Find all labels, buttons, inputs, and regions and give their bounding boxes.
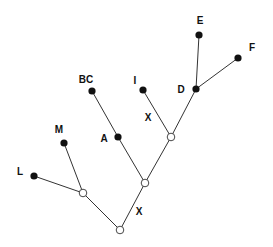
edge-n2-A — [118, 137, 145, 183]
tree-edges — [34, 35, 238, 230]
node-label-bc: BC — [79, 74, 93, 85]
edge-n3-M — [64, 143, 83, 193]
node-d — [192, 85, 199, 92]
edge-root-n3 — [83, 193, 120, 230]
node-label-a: A — [100, 133, 107, 144]
edge-n2-n1 — [145, 137, 171, 183]
node-label-f: F — [249, 42, 255, 53]
node-m — [60, 139, 67, 146]
node-label-i: I — [134, 75, 137, 86]
edge-label-x: X — [136, 206, 143, 217]
edge-D-F — [196, 58, 238, 89]
node-e — [195, 31, 202, 38]
node-label-e: E — [197, 15, 204, 26]
edge-label-x: X — [145, 112, 152, 123]
open-node-root — [116, 226, 124, 234]
node-label-d: D — [177, 84, 184, 95]
node-a — [114, 133, 121, 140]
edge-D-E — [196, 35, 199, 89]
node-l — [30, 172, 37, 179]
open-node-n1 — [167, 133, 175, 141]
edge-A-BC — [92, 91, 118, 137]
edge-n1-D — [171, 89, 196, 137]
open-node-n3 — [79, 189, 87, 197]
node-label-l: L — [17, 166, 23, 177]
node-i — [139, 86, 146, 93]
tree-diagram: EFDIBCAMLXX — [0, 0, 273, 247]
node-bc — [88, 87, 95, 94]
open-node-n2 — [141, 179, 149, 187]
node-label-m: M — [55, 124, 63, 135]
node-f — [234, 54, 241, 61]
tree-labels: EFDIBCAMLXX — [17, 15, 255, 217]
edge-n3-L — [34, 176, 83, 193]
